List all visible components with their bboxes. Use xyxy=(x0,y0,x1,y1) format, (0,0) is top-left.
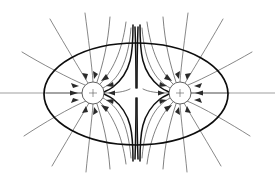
figure-root: Electric field lines of two like point c… xyxy=(0,0,275,183)
left-charge-marker xyxy=(82,82,104,104)
field-line-diagram: Electric field lines of two like point c… xyxy=(0,0,275,183)
right-charge-marker xyxy=(169,82,191,104)
